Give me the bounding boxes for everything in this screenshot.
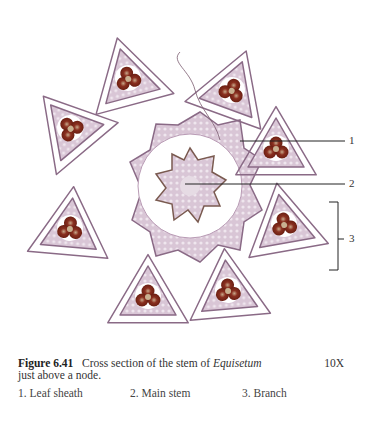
label-1: 1 bbox=[349, 134, 355, 146]
genus-name: Equisetum bbox=[213, 357, 262, 369]
magnification: 10X bbox=[324, 357, 344, 369]
legend-item-main-stem: 2. Main stem bbox=[130, 387, 190, 399]
caption-continuation: just above a node. bbox=[18, 369, 101, 381]
figure-caption: Figure 6.41 Cross section of the stem of… bbox=[18, 357, 358, 381]
bracket-3 bbox=[329, 202, 338, 270]
micrograph: 1 2 3 bbox=[0, 0, 375, 345]
legend-item-branch: 3. Branch bbox=[242, 387, 287, 399]
caption-text: Cross section of the stem of bbox=[82, 357, 213, 369]
stem-cross-section-image bbox=[0, 0, 375, 345]
label-2: 2 bbox=[349, 177, 355, 189]
label-3: 3 bbox=[349, 232, 355, 244]
figure-number: Figure 6.41 bbox=[18, 357, 73, 369]
legend-item-leaf-sheath: 1. Leaf sheath bbox=[18, 387, 83, 399]
